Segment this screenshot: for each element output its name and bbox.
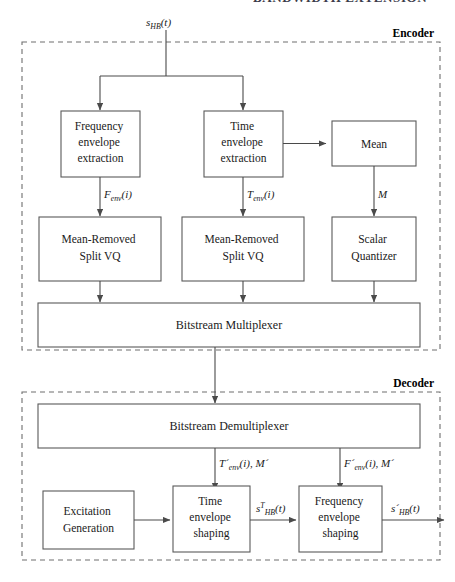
block-bitstream-multiplexer-label: Bitstream Multiplexer [176,318,282,332]
encoder-section-label: Encoder [392,27,434,39]
block-mean-removed-split-vq-time[interactable] [182,217,304,281]
block-excitation-generation[interactable] [43,491,134,549]
signal-f-env-label: Fenv(i) [103,188,132,203]
signal-t-env-decoded-label: T´env(i), M´ [219,457,269,472]
decoder-section-label: Decoder [393,377,434,389]
block-mean-removed-split-vq-frequency[interactable] [39,217,161,281]
block-freq-envelope-extraction-label: Frequency envelope extraction [75,120,126,164]
signal-f-env-decoded-label: F´env(i), M´ [343,457,394,472]
signal-mean-label: M [377,188,388,200]
signal-t-env-label: Tenv(i) [247,188,275,203]
block-scalar-quantizer[interactable] [332,217,416,281]
signal-time-shaped-label: sTHB(t) [256,501,286,517]
input-signal-label: sHB(t) [146,16,171,31]
block-bitstream-demultiplexer-label: Bitstream Demultiplexer [170,419,289,433]
signal-output-label: s´HB(t) [391,502,420,517]
block-diagram: Encoder Decoder sHB(t) Frequency envelop… [0,0,455,582]
figure-canvas: BANDWIDTH EXTENSION Encoder Decoder sHB(… [0,0,455,582]
block-mean-label: Mean [361,138,387,150]
